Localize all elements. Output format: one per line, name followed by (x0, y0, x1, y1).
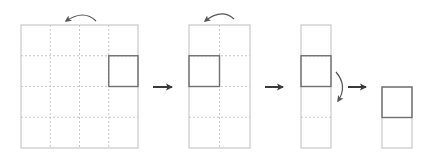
grid-step-1 (21, 25, 138, 148)
grid-step-3 (301, 25, 331, 148)
grid-step-2 (189, 25, 250, 148)
fold-arrow-step-1-icon (66, 15, 96, 21)
highlighted-cell (301, 56, 331, 87)
folding-diagram (0, 0, 433, 159)
fold-arrow-step-3-icon (336, 72, 343, 101)
highlighted-cell (189, 56, 220, 87)
fold-arrow-step-2-icon (205, 14, 234, 21)
highlighted-cell (382, 87, 412, 118)
grid-step-4 (382, 87, 412, 148)
highlighted-cell (109, 56, 138, 87)
